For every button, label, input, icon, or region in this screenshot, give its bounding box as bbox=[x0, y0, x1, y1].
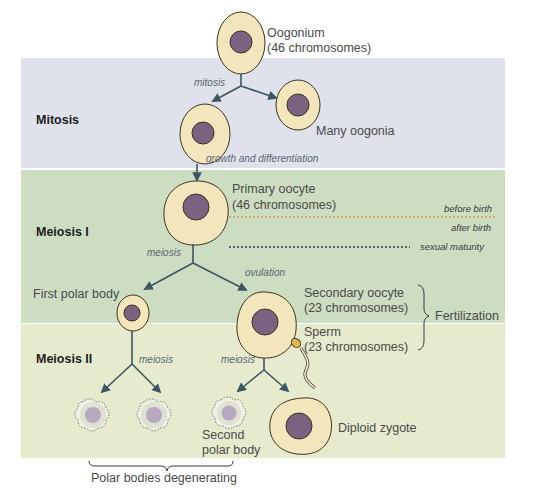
polar-bodies-bracket bbox=[89, 461, 233, 471]
oogonium-cell-icon bbox=[217, 12, 265, 74]
second-polar-body-label-1: Second bbox=[202, 428, 244, 443]
second-polar-body-icon bbox=[212, 397, 246, 429]
phase-label-meiosis-1: Meiosis I bbox=[36, 225, 89, 239]
fertilization-label: Fertilization bbox=[435, 309, 499, 324]
primary-oocyte-label: Primary oocyte bbox=[232, 182, 315, 197]
phase-label-meiosis-2: Meiosis II bbox=[36, 352, 92, 366]
sexual-maturity-label: sexual maturity bbox=[420, 241, 484, 252]
process-growth: growth and differentiation bbox=[206, 153, 318, 164]
process-ovulation: ovulation bbox=[245, 267, 285, 278]
process-mitosis: mitosis bbox=[194, 77, 225, 88]
oogonium-detail: (46 chromosomes) bbox=[267, 41, 371, 56]
first-polar-body-label: First polar body bbox=[33, 287, 119, 302]
first-polar-body-cell-icon bbox=[117, 295, 149, 331]
process-meiosis-1: meiosis bbox=[147, 247, 181, 258]
secondary-oocyte-cell-icon bbox=[237, 292, 296, 358]
sperm-detail: (23 chromosomes) bbox=[304, 340, 408, 355]
many-oogonia-label: Many oogonia bbox=[316, 124, 395, 139]
many-oogonia-cell-icon bbox=[276, 80, 320, 130]
diploid-zygote-label: Diploid zygote bbox=[338, 421, 417, 436]
process-meiosis-2-left: meiosis bbox=[139, 354, 173, 365]
process-meiosis-2-right: meiosis bbox=[221, 354, 255, 365]
sperm-label: Sperm bbox=[304, 325, 341, 340]
polar-bodies-degenerating-label: Polar bodies degenerating bbox=[91, 471, 237, 486]
secondary-oocyte-detail: (23 chromosomes) bbox=[304, 301, 408, 316]
second-polar-body-label-2: polar body bbox=[202, 443, 260, 458]
before-birth-label: before birth bbox=[444, 203, 492, 214]
oogonium-label: Oogonium bbox=[267, 26, 325, 41]
primary-oocyte-detail: (46 chromosomes) bbox=[232, 198, 336, 213]
oogenesis-diagram: Mitosis Meiosis I Meiosis II Oogonium (4… bbox=[0, 0, 533, 488]
diploid-zygote-cell-icon bbox=[270, 398, 332, 454]
after-birth-label: after birth bbox=[451, 222, 491, 233]
phase-label-mitosis: Mitosis bbox=[36, 113, 79, 127]
primary-oocyte-cell-icon bbox=[164, 181, 228, 245]
mitosis-band bbox=[21, 58, 505, 168]
secondary-oocyte-label: Secondary oocyte bbox=[304, 286, 404, 301]
